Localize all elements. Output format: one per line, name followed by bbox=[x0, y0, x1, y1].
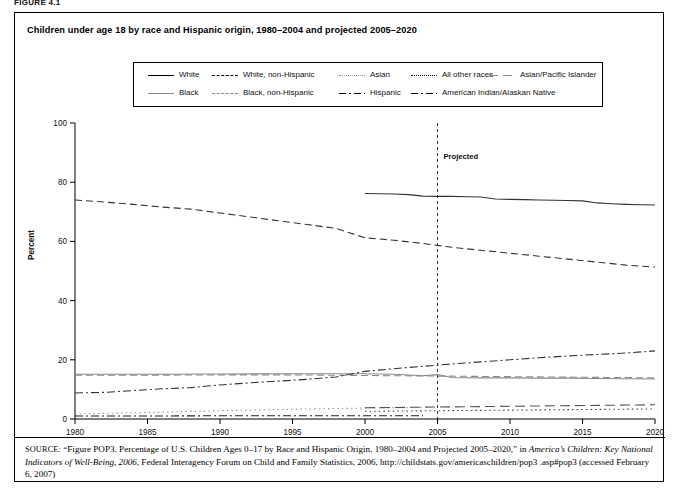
source-note: SOURCE: “Figure POP3. Percentage of U.S.… bbox=[25, 443, 657, 480]
y-axis-tick-label: 40 bbox=[58, 297, 68, 306]
source-text-1: “Figure POP3. Percentage of U.S. Childre… bbox=[61, 444, 529, 454]
x-axis-tick-label: 1985 bbox=[138, 428, 157, 437]
y-axis-tick-label: 60 bbox=[58, 237, 68, 246]
series-line-black bbox=[75, 374, 655, 379]
y-axis-tick-label: 80 bbox=[58, 178, 68, 187]
series-line-black-non-hispanic bbox=[75, 375, 655, 378]
source-prefix: SOURCE: bbox=[25, 445, 61, 454]
series-line-white-non-hispanic bbox=[75, 200, 655, 267]
series-line-all-other-races bbox=[365, 409, 655, 411]
y-axis-tick-label: 0 bbox=[62, 415, 67, 424]
series-line-white bbox=[365, 193, 655, 205]
x-axis-tick-label: 1990 bbox=[211, 428, 230, 437]
y-axis-tick-label: 100 bbox=[53, 119, 67, 128]
source-divider bbox=[15, 437, 665, 438]
x-axis-tick-label: 2005 bbox=[428, 428, 447, 437]
series-line-hispanic bbox=[75, 351, 655, 393]
x-axis-tick-label: 1995 bbox=[283, 428, 302, 437]
x-axis-tick-label: 1980 bbox=[66, 428, 85, 437]
x-axis-tick-label: 2020 bbox=[646, 428, 665, 437]
y-axis-tick-label: 20 bbox=[58, 356, 68, 365]
x-axis-tick-label: 2015 bbox=[573, 428, 592, 437]
chart-svg: 0204060801001980198519901995200020052010… bbox=[15, 13, 665, 437]
chart-plot-area: Percent 02040608010019801985199019952000… bbox=[15, 13, 665, 483]
figure-label: FIGURE 4.1 bbox=[14, 0, 61, 7]
x-axis-tick-label: 2000 bbox=[356, 428, 375, 437]
projected-label: Projected bbox=[444, 152, 479, 161]
figure-frame: Children under age 18 by race and Hispan… bbox=[14, 12, 664, 482]
series-line-asian-pacific-islander bbox=[365, 405, 655, 408]
x-axis-tick-label: 2010 bbox=[501, 428, 520, 437]
